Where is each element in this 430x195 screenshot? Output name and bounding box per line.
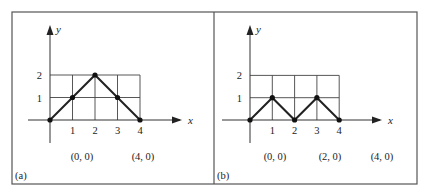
coordinate-label: (0, 0) bbox=[264, 151, 287, 163]
x-tick-label: 2 bbox=[292, 125, 297, 136]
y-tick-label: 2 bbox=[237, 70, 242, 81]
y-axis-label: y bbox=[55, 23, 61, 35]
y-tick-label: 2 bbox=[37, 70, 42, 81]
grid bbox=[50, 75, 140, 120]
coordinate-label: (0, 0) bbox=[71, 151, 94, 163]
panel-a: xy123412(0, 0)(4, 0)(a) bbox=[15, 23, 193, 182]
x-axis-label: x bbox=[187, 114, 193, 126]
x-tick-label: 4 bbox=[337, 125, 343, 136]
x-tick-label: 1 bbox=[270, 125, 275, 136]
panel-label: (b) bbox=[217, 170, 230, 182]
y-axis-arrow-icon bbox=[47, 25, 54, 35]
data-point bbox=[70, 95, 75, 100]
data-point bbox=[292, 117, 297, 122]
data-point bbox=[47, 117, 52, 122]
x-axis-label: x bbox=[387, 114, 393, 126]
y-axis-arrow-icon bbox=[247, 25, 254, 35]
data-point bbox=[92, 72, 97, 77]
x-axis-arrow-icon bbox=[372, 117, 382, 124]
panel-b: xy123412(0, 0)(2, 0)(4, 0)(b) bbox=[217, 23, 394, 182]
x-tick-label: 2 bbox=[92, 125, 97, 136]
x-tick-label: 3 bbox=[115, 125, 120, 136]
data-point bbox=[137, 117, 142, 122]
coordinate-label: (4, 0) bbox=[132, 151, 155, 163]
data-point bbox=[314, 95, 319, 100]
x-tick-label: 4 bbox=[137, 125, 143, 136]
y-tick-label: 1 bbox=[37, 93, 42, 104]
figure: xy123412(0, 0)(4, 0)(a)xy123412(0, 0)(2,… bbox=[0, 0, 430, 195]
panel-label: (a) bbox=[15, 170, 27, 182]
data-point bbox=[270, 95, 275, 100]
coordinate-label: (2, 0) bbox=[319, 151, 342, 163]
coordinate-label: (4, 0) bbox=[371, 151, 394, 163]
data-point bbox=[337, 117, 342, 122]
x-axis-arrow-icon bbox=[172, 117, 182, 124]
x-tick-label: 1 bbox=[70, 125, 75, 136]
data-point bbox=[247, 117, 252, 122]
data-point bbox=[115, 95, 120, 100]
grid bbox=[250, 75, 339, 120]
y-axis-label: y bbox=[255, 23, 261, 35]
x-tick-label: 3 bbox=[314, 125, 319, 136]
y-tick-label: 1 bbox=[237, 93, 242, 104]
